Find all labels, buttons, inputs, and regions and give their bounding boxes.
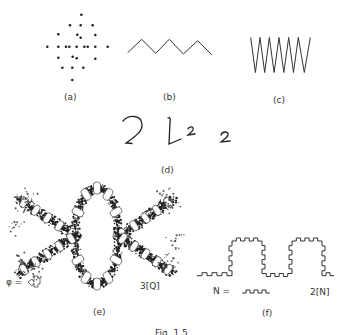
panel-d-label: (d) xyxy=(161,166,174,175)
panel-a-dots xyxy=(46,13,109,81)
panel-b-label: (b) xyxy=(163,93,176,102)
panel-e-generator-label: φ = xyxy=(6,278,22,287)
panel-b-zigzag xyxy=(128,39,212,54)
panel-e-generator-glyph xyxy=(28,276,40,287)
panel-e-iteration-label: 3[Q] xyxy=(140,282,160,291)
panel-f-iteration-label: 2[N] xyxy=(310,288,329,297)
panel-f-label: (f) xyxy=(262,309,272,318)
figure-caption: Fig. 1.5 xyxy=(155,329,188,335)
panel-e-label: (e) xyxy=(93,308,106,317)
panel-c-label: (c) xyxy=(273,96,285,105)
panel-f-generator-label: N = xyxy=(213,287,230,296)
panel-f-generator xyxy=(242,290,270,293)
panel-f-fractal xyxy=(197,238,334,277)
panel-d-handwriting xyxy=(123,116,230,144)
panel-a-label: (a) xyxy=(64,93,77,102)
panel-e-fractal xyxy=(9,182,185,290)
panel-c-zigzag xyxy=(251,38,311,73)
